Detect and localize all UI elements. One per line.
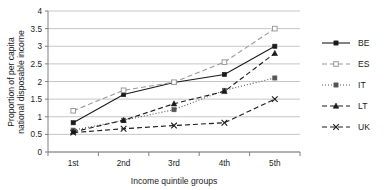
- y-axis-title-line-1: Proportion of per capita: [6, 37, 16, 127]
- y-tick-label: 3.5: [31, 25, 43, 34]
- series-marker-it-3rd: [172, 108, 176, 112]
- x-axis-title: Income quintile groups: [131, 176, 217, 186]
- y-tick-label: 0: [37, 148, 42, 157]
- legend-marker-it: [334, 83, 338, 87]
- y-tick-label: 1: [37, 113, 42, 122]
- y-tick-label: 3: [37, 42, 42, 51]
- series-marker-es-4th: [222, 60, 227, 65]
- legend-item-it[interactable]: IT: [322, 80, 366, 90]
- series-marker-es-2nd: [121, 88, 126, 93]
- y-tick-label: 1.5: [31, 95, 43, 104]
- x-tick-label: 2nd: [117, 159, 131, 168]
- series-marker-es-1st: [71, 108, 76, 113]
- legend-label-es: ES: [358, 59, 370, 69]
- series-marker-es-5th: [273, 26, 278, 31]
- x-tick-label: 4th: [219, 159, 231, 168]
- legend-item-uk[interactable]: UK: [322, 122, 370, 132]
- y-axis-ticks: 00.511.522.533.54: [31, 7, 48, 157]
- x-tick-label: 3rd: [168, 159, 180, 168]
- y-tick-label: 4: [37, 7, 42, 16]
- legend-item-be[interactable]: BE: [322, 38, 370, 48]
- chart-legend: BEESITLTUK: [322, 38, 370, 132]
- series-marker-be-4th: [222, 72, 226, 76]
- legend-label-be: BE: [358, 38, 370, 48]
- legend-marker-be: [334, 41, 338, 45]
- y-tick-label: 2.5: [31, 60, 43, 69]
- legend-label-it: IT: [358, 80, 366, 90]
- x-axis-ticks: 1st2nd3rd4th5th: [48, 152, 300, 168]
- legend-item-es[interactable]: ES: [322, 59, 370, 69]
- series-marker-it-5th: [273, 76, 277, 80]
- series-marker-es-3rd: [172, 80, 177, 85]
- legend-label-uk: UK: [358, 122, 370, 132]
- legend-marker-es: [334, 62, 339, 67]
- x-tick-label: 1st: [68, 159, 80, 168]
- y-axis-title-line-2: national disposable income: [16, 30, 26, 134]
- legend-label-lt: LT: [358, 101, 368, 111]
- y-tick-label: 2: [37, 78, 42, 87]
- series-marker-be-5th: [273, 44, 277, 48]
- chart-svg: 00.511.522.533.54 1st2nd3rd4th5th Income…: [0, 0, 389, 190]
- series-marker-be-1st: [71, 121, 75, 125]
- y-tick-label: 0.5: [31, 130, 43, 139]
- x-tick-label: 5th: [269, 159, 281, 168]
- legend-item-lt[interactable]: LT: [322, 101, 368, 111]
- chart-figure: 00.511.522.533.54 1st2nd3rd4th5th Income…: [0, 0, 389, 190]
